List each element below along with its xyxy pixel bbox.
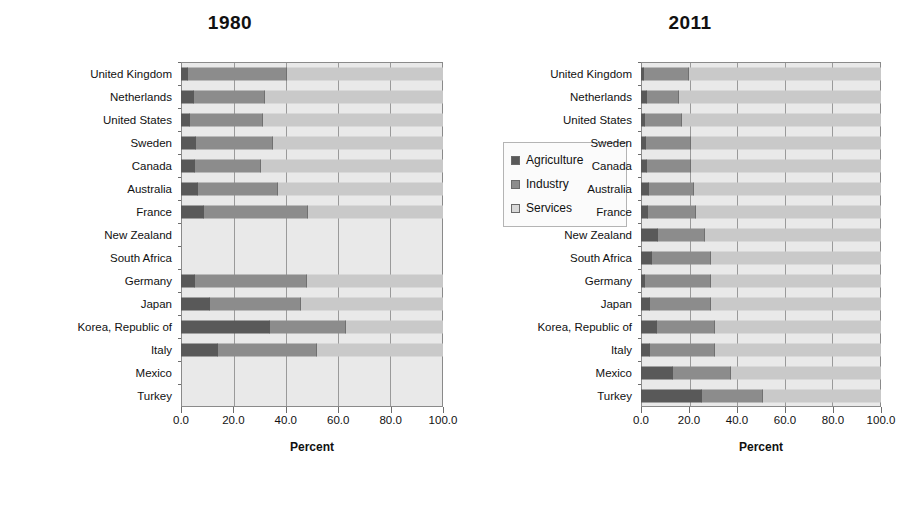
bar-segment-industry [658,228,705,241]
bar-segment-agriculture [181,343,218,356]
y-axis-label: Australia [127,183,172,195]
bar-segment-agriculture [181,67,188,80]
bar-segment-agriculture [641,251,652,264]
bar-segment-industry [647,159,692,172]
x-axis-tick-label: 40.0 [275,414,297,426]
bar-segment-services [711,297,881,310]
x-axis-ticks-2011: 0.020.040.060.080.0100.0 [641,414,881,432]
plot-area-1980: Agriculture Industry Services [181,62,443,407]
bar-segment-industry [190,113,263,126]
stacked-bar [181,389,443,402]
stacked-bar [641,90,881,103]
bar-row [181,108,443,131]
bar-segment-industry [195,159,261,172]
bar-segment-agriculture [641,297,650,310]
x-axis-tick-label: 80.0 [379,414,401,426]
bar-segment-agriculture [641,343,650,356]
bar-segment-agriculture [641,389,702,402]
bar-row [181,315,443,338]
bar-segment-industry [198,182,278,195]
x-axis-tick [233,407,234,413]
bar-segment-services [711,274,881,287]
y-axis-label: United States [103,114,172,126]
x-axis-tick-label: 100.0 [867,414,896,426]
bar-row [181,223,443,246]
stacked-bar [641,274,881,287]
bar-segment-industry [646,136,691,149]
bar-segment-agriculture [181,182,198,195]
bar-segment-services [278,182,443,195]
y-axis-label: Canada [132,160,172,172]
bar-segment-agriculture [641,205,648,218]
y-axis-label: Japan [141,298,172,310]
bar-segment-agriculture [641,320,657,333]
stacked-bar [181,136,443,149]
y-axis-label: New Zealand [104,229,172,241]
x-axis-title-1980: Percent [181,440,443,454]
bar-segment-services [263,113,443,126]
x-axis-tick-label: 20.0 [678,414,700,426]
bar-segment-industry [650,297,711,310]
bar-row [641,108,881,131]
bar-segment-industry [702,389,763,402]
bar-row [181,246,443,269]
x-axis-tick-label: 0.0 [633,414,649,426]
bar-segment-agriculture [181,274,195,287]
bar-segment-industry [210,297,302,310]
bar-row [181,62,443,85]
x-axis-tick-label: 80.0 [822,414,844,426]
x-axis-tick [391,407,392,413]
x-axis-tick [286,407,287,413]
bar-segment-agriculture [181,159,195,172]
bar-segment-services [301,297,443,310]
bar-segment-services [715,320,881,333]
y-axis-label: France [136,206,172,218]
bar-segment-services [691,136,881,149]
bar-segment-services [307,274,443,287]
y-axis-label: United States [563,114,632,126]
bar-segment-services [731,366,881,379]
bar-segment-agriculture [181,205,204,218]
bars-container-1980 [181,62,443,407]
stacked-bar [181,159,443,172]
bar-segment-industry [645,113,682,126]
bar-segment-industry [652,251,711,264]
y-axis-label: United Kingdom [90,68,172,80]
x-axis-tick-label: 20.0 [222,414,244,426]
bar-row [181,177,443,200]
bar-segment-services [689,67,881,80]
stacked-bar [641,366,881,379]
bar-row [641,384,881,407]
y-axis-label: Turkey [137,390,172,402]
stacked-bar [181,113,443,126]
bar-row [641,292,881,315]
chart-panel-2011: 2011 United KingdomNetherlandsUnited Sta… [460,0,920,520]
bar-segment-services [691,159,881,172]
y-axis-label: Italy [151,344,172,356]
y-axis-label: Australia [587,183,632,195]
y-axis-label: Italy [611,344,632,356]
x-axis-title-2011: Percent [641,440,881,454]
y-axis-label: Mexico [136,367,172,379]
bar-segment-industry [194,90,264,103]
chart-title-2011: 2011 [460,12,920,34]
x-axis-tick [181,407,182,413]
stacked-bar [181,205,443,218]
x-axis-tick [338,407,339,413]
stacked-bar [181,228,443,241]
stacked-bar [641,136,881,149]
x-axis-tick [833,407,834,413]
bar-segment-industry [645,274,711,287]
bar-segment-services [711,251,881,264]
bar-segment-services [682,113,881,126]
bar-segment-industry [644,67,689,80]
bar-row [181,131,443,154]
bar-segment-services [265,90,443,103]
bar-segment-industry [657,320,716,333]
stacked-bar [181,90,443,103]
bar-row [641,315,881,338]
y-axis-label: South Africa [110,252,172,264]
y-axis-label: Japan [601,298,632,310]
bar-segment-agriculture [641,182,649,195]
y-axis-label: Sweden [130,137,172,149]
